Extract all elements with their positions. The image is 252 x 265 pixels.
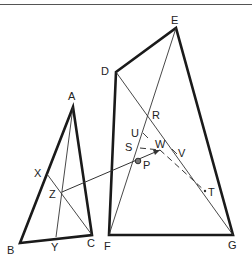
- label-w: W: [155, 138, 166, 150]
- quadrilateral-defg: [109, 28, 233, 235]
- label-v: V: [178, 147, 186, 159]
- diagonal-e-f: [109, 28, 176, 235]
- diagonal-d-g: [116, 72, 233, 235]
- tick-u: [143, 133, 148, 138]
- point-t-dot: [204, 190, 206, 192]
- label-y: Y: [51, 241, 59, 253]
- label-x: X: [34, 167, 42, 179]
- label-t: T: [208, 186, 215, 198]
- triangle-abc: [20, 107, 92, 243]
- label-a: A: [68, 90, 76, 102]
- label-u: U: [131, 127, 139, 139]
- label-p: P: [143, 159, 150, 171]
- label-b: B: [7, 244, 14, 256]
- label-z: Z: [49, 188, 56, 200]
- label-s: S: [125, 141, 132, 153]
- label-f: F: [104, 240, 111, 252]
- label-g: G: [228, 239, 237, 251]
- diagram-frame: A B C X Y Z D E F G R U S W V P T: [0, 0, 252, 265]
- geometry-diagram: A B C X Y Z D E F G R U S W V P T: [0, 0, 252, 265]
- point-p-marker: [135, 158, 141, 164]
- label-c: C: [87, 237, 95, 249]
- label-e: E: [171, 14, 178, 26]
- arrow-head-w: [153, 150, 160, 155]
- label-r: R: [152, 109, 160, 121]
- label-d: D: [101, 65, 109, 77]
